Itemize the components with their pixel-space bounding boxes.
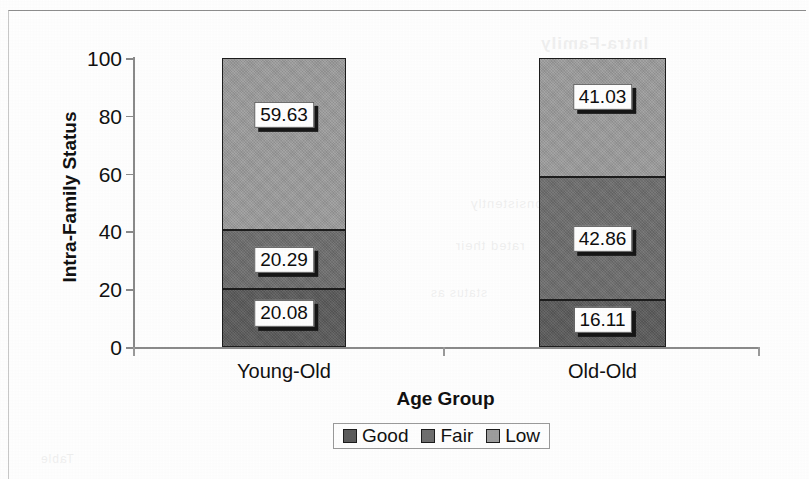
- x-axis-category-label: Young-Old: [174, 360, 394, 383]
- y-axis-tick-label: 40: [60, 221, 122, 242]
- bar-old-old[interactable]: 16.1142.8641.03: [539, 58, 666, 347]
- y-axis-tick-label: 0: [60, 337, 122, 358]
- stacked-bar-chart: Intra-Family Status 020406080100 20.0820…: [0, 0, 809, 479]
- legend-label: Fair: [440, 426, 473, 445]
- data-value-label: 59.63: [254, 102, 314, 128]
- bar-segment-low[interactable]: [539, 58, 666, 177]
- x-axis-line: [133, 347, 758, 349]
- legend-item-good[interactable]: Good: [343, 426, 408, 445]
- chart-legend: GoodFairLow: [333, 423, 550, 449]
- legend-swatch-icon: [421, 429, 435, 443]
- legend-swatch-icon: [343, 429, 357, 443]
- x-axis-tick-mark: [443, 347, 445, 356]
- bar-segment-low[interactable]: [222, 58, 346, 230]
- data-value-label: 16.11: [573, 307, 631, 333]
- data-value-label: 41.03: [573, 84, 633, 110]
- x-axis-title: Age Group: [133, 388, 758, 410]
- legend-item-low[interactable]: Low: [486, 426, 540, 445]
- data-value-label: 42.86: [573, 225, 633, 251]
- legend-swatch-icon: [486, 429, 500, 443]
- y-axis-tick-label: 60: [60, 163, 122, 184]
- chart-page: Intra-Family consistently rated their st…: [0, 0, 809, 479]
- bar-young-old[interactable]: 20.0820.2959.63: [222, 58, 346, 347]
- legend-label: Low: [505, 426, 540, 445]
- y-axis-tick-label: 80: [60, 105, 122, 126]
- y-axis-line: [133, 57, 135, 348]
- data-value-label: 20.29: [254, 247, 314, 273]
- data-value-label: 20.08: [254, 300, 314, 326]
- y-axis-tick-label: 100: [60, 48, 122, 69]
- y-axis-tick-label: 20: [60, 279, 122, 300]
- legend-item-fair[interactable]: Fair: [421, 426, 473, 445]
- x-axis-tick-mark: [758, 347, 760, 356]
- y-axis-tick-labels: 020406080100: [60, 58, 122, 347]
- x-axis-tick-mark: [133, 347, 135, 356]
- legend-label: Good: [362, 426, 408, 445]
- x-axis-category-label: Old-Old: [493, 360, 713, 383]
